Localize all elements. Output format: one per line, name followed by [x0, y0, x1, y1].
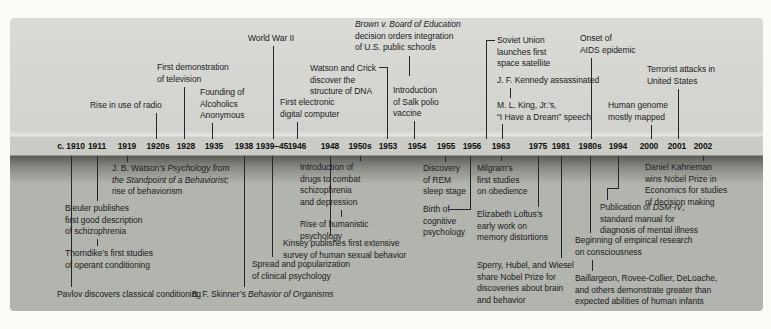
event-aids-epidemic: Onset ofAIDS epidemic: [580, 33, 636, 56]
event-text-line: Bleuler publishes: [65, 203, 142, 215]
event-watson-crick: Watson and Crickdiscover thestructure of…: [310, 63, 376, 98]
event-soviet-satellite: Soviet Unionlaunches firstspace satellit…: [497, 35, 550, 70]
event-text-line: Rise in use of radio: [90, 100, 162, 112]
event-text-line: structure of DNA: [310, 86, 376, 98]
event-loftus: Elizabeth Loftus’searly work onmemory di…: [477, 209, 548, 244]
connector-line: [678, 89, 679, 139]
year-label: 1919: [118, 137, 137, 156]
event-text-line: cognitive: [423, 216, 465, 228]
connector-line: [414, 121, 415, 139]
connector-line: [387, 67, 388, 139]
event-brown-v-board: Brown v. Board of Educationdecision orde…: [355, 19, 461, 54]
year-label: 1938: [235, 137, 254, 156]
event-human-genome: Human genomemostly mapped: [608, 100, 668, 123]
connector-line: [445, 156, 446, 162]
connector-line: [156, 113, 157, 139]
year-label: 2001: [668, 137, 687, 156]
event-text-line: J. B. Watson’s Psychology from: [112, 163, 230, 175]
event-text-line: wins Nobel Prize in: [645, 174, 727, 186]
event-text-line: the Standpoint of a Behaviorist;: [112, 175, 230, 187]
event-text-line: vaccine: [393, 108, 439, 120]
event-bleuler: Bleuler publishesfirst good descriptiono…: [65, 203, 142, 238]
event-radio: Rise in use of radio: [90, 100, 162, 112]
event-text-line: Discovery: [423, 163, 466, 175]
connector-line: [561, 156, 562, 258]
event-skinner: B. F. Skinner’s Behavior of Organisms: [192, 289, 333, 301]
event-text-line: Watson and Crick: [310, 63, 376, 75]
connector-line: [297, 122, 298, 139]
event-text-line: of decision making: [645, 197, 727, 209]
event-text-line: J. F. Kennedy assassinated: [497, 75, 599, 87]
year-label: 1935: [205, 137, 224, 156]
event-text-line: schizophrenia: [300, 185, 360, 197]
connector-line: [501, 156, 502, 161]
event-text-line: on obedience: [477, 186, 527, 198]
event-text-line: Beginning of empirical research: [575, 235, 693, 247]
event-text-line: Alcoholics: [200, 99, 244, 111]
event-kahneman: Daniel Kahnemanwins Nobel Prize inEconom…: [645, 162, 727, 208]
connector-line: [703, 156, 704, 161]
connector-line: [272, 156, 273, 257]
connector-line: [502, 124, 503, 139]
year-label: 2002: [694, 137, 713, 156]
event-text-line: of Salk polio: [393, 97, 439, 109]
event-consciousness-research: Beginning of empirical researchon consci…: [575, 235, 693, 258]
event-text-line: mostly mapped: [608, 112, 668, 124]
connector-line: [97, 239, 98, 246]
event-text-line: diagnosis of mental illness: [600, 225, 698, 237]
event-milgram: Milgram’sfirst studieson obedience: [477, 163, 527, 198]
event-text-line: share Nobel Prize for: [477, 272, 574, 284]
event-digital-computer: First electronicdigital computer: [280, 97, 339, 120]
event-text-line: and others demonstrate greater than: [575, 285, 717, 297]
event-text-line: Brown v. Board of Education: [355, 19, 461, 31]
event-text-line: of clinical psychology: [252, 271, 350, 283]
connector-line: [212, 123, 213, 139]
event-humanistic-psychology: Rise of humanisticpsychology: [300, 219, 369, 242]
event-text-line: of REM: [423, 175, 466, 187]
event-text-line: Rise of humanistic: [300, 219, 369, 231]
year-label: 1939–45: [256, 137, 288, 156]
event-baillargeon: Baillargeon, Rovee-Collier, DeLoache,and…: [575, 273, 717, 308]
event-mlk-speech: M. L. King, Jr.’s,“I Have a Dream” speec…: [497, 100, 591, 123]
connector-line: [607, 188, 619, 189]
event-text-line: Birth of: [423, 204, 465, 216]
event-text-line: of operant conditioning: [65, 260, 153, 272]
event-text-line: space satellite: [497, 58, 550, 70]
year-label: 1956: [463, 137, 482, 156]
event-text-line: launches first: [497, 47, 550, 59]
event-text-line: of television: [157, 74, 229, 86]
event-text-line: United States: [647, 76, 715, 88]
event-text-line: Daniel Kahneman: [645, 162, 727, 174]
connector-line: [184, 87, 185, 139]
event-text-line: of schizophrenia: [65, 226, 142, 238]
event-text-line: M. L. King, Jr.’s,: [497, 100, 591, 112]
event-text-line: AIDS epidemic: [580, 45, 636, 57]
year-label: 1920s: [146, 137, 169, 156]
event-text-line: World War II: [248, 33, 294, 45]
event-text-line: sleep stage: [423, 186, 466, 198]
event-text-line: expected abilities of human infants: [575, 296, 717, 308]
year-label: 1950s: [348, 137, 371, 156]
event-text-line: first good description: [65, 215, 142, 227]
year-label: 1948: [321, 137, 340, 156]
connector-line: [470, 156, 471, 210]
year-label: 1963: [492, 137, 511, 156]
connector-line: [486, 40, 495, 41]
connector-line: [591, 58, 592, 139]
event-text-line: Sperry, Hubel, and Wiesel: [477, 260, 574, 272]
connector-line: [273, 46, 274, 139]
event-text-line: Human genome: [608, 100, 668, 112]
event-text-line: Pavlov discovers classical conditioning: [57, 289, 201, 301]
connector-line: [510, 88, 511, 98]
event-drugs: Introduction ofdrugs to combatschizophre…: [300, 162, 360, 208]
event-thorndike: Thorndike’s first studiesof operant cond…: [65, 248, 153, 271]
event-text-line: Milgram’s: [477, 163, 527, 175]
event-text-line: and behavior: [477, 295, 574, 307]
event-text-line: of U.S. public schools: [355, 42, 461, 54]
connector-line: [618, 156, 619, 189]
event-text-line: Baillargeon, Rovee-Collier, DeLoache,: [575, 273, 717, 285]
event-text-line: Anonymous: [200, 110, 244, 122]
year-label: 1928: [177, 137, 196, 156]
event-text-line: rise of behaviorism: [112, 186, 230, 198]
event-text-line: Introduction: [393, 85, 439, 97]
